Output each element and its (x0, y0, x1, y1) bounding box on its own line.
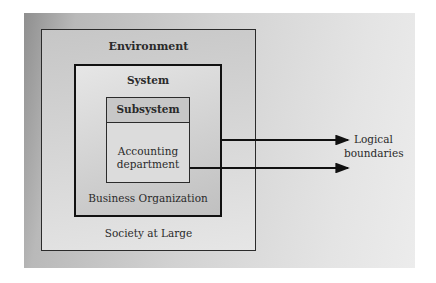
annotation-line1: Logical (354, 133, 393, 145)
annotation-line2: boundaries (344, 147, 404, 159)
